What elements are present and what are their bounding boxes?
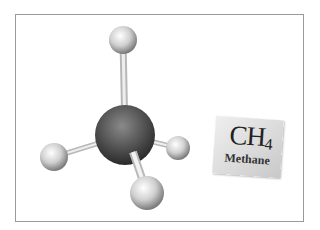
carbon-atom (95, 105, 155, 165)
hydrogen-atom-left (40, 143, 68, 171)
methane-molecule (0, 0, 320, 230)
hydrogen-atom-top (109, 26, 137, 54)
formula-base: CH (229, 120, 267, 152)
formula-label-card: CH4 Methane (212, 116, 284, 179)
hydrogen-atom-right (166, 136, 190, 160)
hydrogen-atom-bottom (130, 176, 164, 210)
formula-subscript: 4 (264, 135, 272, 152)
